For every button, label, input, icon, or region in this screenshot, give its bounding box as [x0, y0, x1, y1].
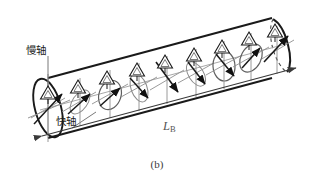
state-marker-triangle-2: [71, 80, 86, 98]
fiber-diagram: [0, 0, 314, 178]
state-marker-triangle-5: [158, 55, 173, 73]
cylinder-top-edge: [48, 18, 272, 78]
beat-length-subscript: B: [170, 124, 176, 134]
polarization-state-6: [178, 48, 214, 97]
fiber-central-axis: [40, 44, 286, 110]
beat-length-label: LB: [163, 119, 176, 134]
figure-caption: (b): [0, 158, 314, 170]
polarization-state-3: [92, 70, 128, 118]
beat-length-symbol: L: [163, 119, 170, 133]
slow-axis-label: 慢轴: [26, 42, 47, 57]
figure-root: 慢轴 快轴 LB (b): [0, 0, 314, 178]
fast-axis-label: 快轴: [56, 113, 77, 128]
state-marker-triangle-8: [242, 32, 257, 50]
